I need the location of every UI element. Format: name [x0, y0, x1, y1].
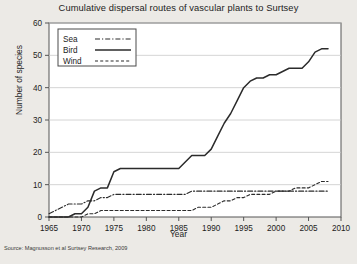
y-tick-label: 40	[33, 84, 43, 93]
y-tick-label: 30	[33, 116, 43, 125]
x-tick-label: 1990	[202, 224, 221, 233]
x-tick-label: 1980	[137, 224, 156, 233]
legend-label-wind: Wind	[63, 57, 82, 66]
x-tick-label: 1995	[235, 224, 254, 233]
x-tick-label: 2010	[332, 224, 351, 233]
x-axis-ticks: 1965197019751980198519901995200020052010	[40, 217, 351, 233]
legend-label-bird: Bird	[63, 46, 78, 55]
y-tick-label: 60	[33, 19, 43, 28]
y-tick-label: 20	[33, 148, 43, 157]
x-tick-label: 2005	[299, 224, 318, 233]
legend-label-sea: Sea	[63, 35, 78, 44]
y-axis-ticks: 0102030405060	[33, 19, 49, 222]
x-tick-label: 1970	[72, 224, 91, 233]
x-tick-label: 2000	[267, 224, 286, 233]
plot-area: 0102030405060 19651970197519801985199019…	[0, 0, 357, 264]
chart-legend: SeaBirdWind	[58, 29, 136, 66]
y-tick-label: 10	[33, 181, 43, 190]
x-tick-label: 1965	[40, 224, 59, 233]
y-tick-label: 50	[33, 51, 43, 60]
chart-figure: Cumulative dispersal routes of vascular …	[0, 0, 357, 264]
x-tick-label: 1985	[170, 224, 189, 233]
y-tick-label: 0	[37, 213, 42, 222]
x-tick-label: 1975	[105, 224, 124, 233]
